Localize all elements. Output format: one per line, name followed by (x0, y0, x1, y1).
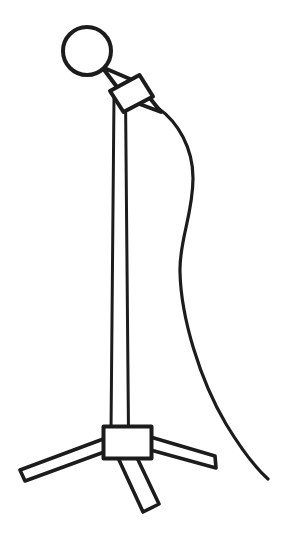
tripod-base-hub (104, 427, 152, 459)
illustration-canvas (0, 0, 289, 539)
microphone-head (63, 27, 111, 75)
microphone-stand-drawing (0, 0, 289, 539)
stand-pole (111, 96, 129, 432)
